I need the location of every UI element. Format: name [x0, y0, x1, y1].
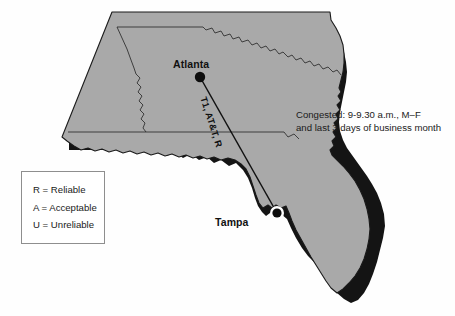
city-label-atlanta: Atlanta	[173, 58, 209, 70]
route-map-figure: Atlanta Tampa T1, AT&T, R Congested: 9-9…	[0, 0, 455, 316]
tampa-node-dot	[272, 208, 281, 217]
congestion-annotation-line-2: and last 3 days of business month	[296, 121, 454, 134]
legend-item-acceptable: A = Acceptable	[33, 199, 104, 217]
legend-item-unreliable: U = Unreliable	[33, 216, 104, 234]
map-landmass-layer	[62, 12, 370, 293]
georgia-florida-landmass	[62, 12, 370, 293]
legend-item-reliable: R = Reliable	[33, 181, 104, 199]
congestion-annotation-line-1: Congested: 9-9.30 a.m., M–F	[296, 108, 454, 121]
congestion-annotation: Congested: 9-9.30 a.m., M–F and last 3 d…	[296, 108, 454, 134]
reliability-legend: R = Reliable A = Acceptable U = Unreliab…	[21, 171, 105, 244]
map-graphic	[0, 0, 455, 316]
city-label-tampa: Tampa	[215, 216, 249, 228]
atlanta-node-dot	[195, 72, 205, 82]
